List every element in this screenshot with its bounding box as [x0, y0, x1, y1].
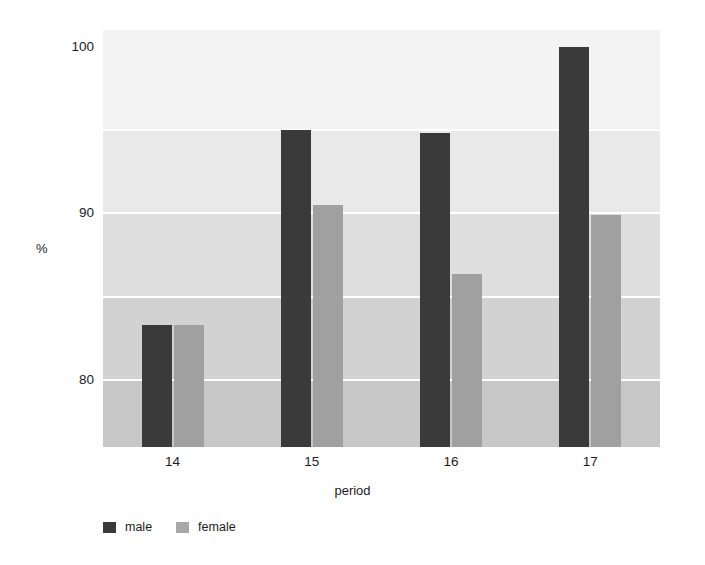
x-tick-label-16: 16 — [444, 455, 459, 469]
bar-chart-figure: 8090100 % 14151617 period malefemale — [0, 0, 705, 565]
bar-male-16 — [420, 133, 450, 447]
y-tick-label: 90 — [48, 206, 94, 220]
bar-female-15 — [313, 205, 343, 447]
legend-swatch-icon — [176, 522, 189, 533]
bar-female-17 — [591, 215, 621, 447]
plot-area — [103, 30, 660, 447]
y-axis-ticks: 8090100 — [38, 0, 94, 565]
bar-male-15 — [281, 130, 311, 447]
bar-male-14 — [142, 325, 172, 447]
legend-swatch-icon — [103, 522, 116, 533]
legend-label: female — [198, 521, 236, 534]
y-tick-label: 80 — [48, 373, 94, 387]
x-tick-label-17: 17 — [583, 455, 598, 469]
legend: malefemale — [103, 521, 236, 534]
y-tick-label: 100 — [48, 40, 94, 54]
bar-male-17 — [559, 47, 589, 447]
legend-item-male: male — [103, 521, 152, 534]
x-axis-label: period — [0, 483, 705, 498]
bar-female-14 — [174, 325, 204, 447]
legend-item-female: female — [176, 521, 236, 534]
x-tick-label-14: 14 — [165, 455, 180, 469]
y-axis-label: % — [36, 241, 48, 256]
legend-label: male — [125, 521, 152, 534]
x-tick-label-15: 15 — [304, 455, 319, 469]
bar-female-16 — [452, 274, 482, 447]
